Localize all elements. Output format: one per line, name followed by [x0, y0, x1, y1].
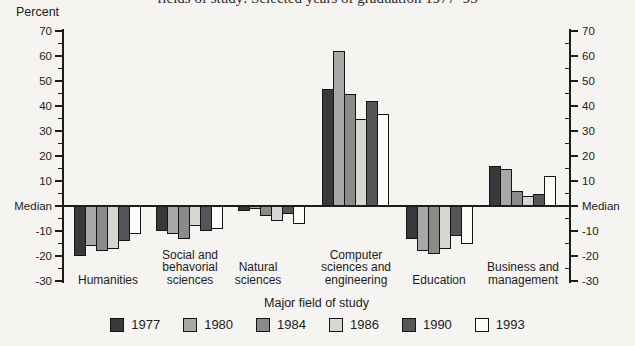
y-tick-label-left: 70 [4, 24, 52, 38]
y-tick-minor-left [58, 143, 62, 144]
bar [293, 206, 305, 224]
y-tick-minor-right [565, 68, 569, 69]
y-tick-label-left: -20 [4, 249, 52, 263]
y-tick-major-right [571, 30, 578, 32]
y-tick-label-left: 20 [4, 149, 52, 163]
y-tick-major-right [571, 155, 578, 157]
y-axis-left [62, 29, 64, 283]
bar [129, 206, 141, 234]
y-tick-label-left: -10 [4, 224, 52, 238]
y-tick-major-right [571, 80, 578, 82]
y-tick-minor-left [58, 193, 62, 194]
y-tick-label-right: -10 [582, 224, 634, 238]
category-label: Education [412, 274, 465, 287]
y-tick-label-right: 40 [582, 99, 634, 113]
y-tick-label-left: 40 [4, 99, 52, 113]
y-tick-major-right [571, 205, 578, 207]
y-tick-minor-left [58, 43, 62, 44]
y-tick-minor-right [565, 268, 569, 269]
legend-item: 1980 [183, 317, 233, 332]
legend-swatch [402, 318, 416, 332]
x-axis-title: Major field of study [63, 296, 570, 310]
y-tick-major-right [571, 180, 578, 182]
y-tick-label-right: 30 [582, 124, 634, 138]
y-tick-label-right: 10 [582, 174, 634, 188]
y-tick-label-right: -30 [582, 274, 634, 288]
legend-item: 1986 [329, 317, 379, 332]
y-tick-major-left [55, 180, 62, 182]
y-tick-label-right: Median [582, 199, 634, 213]
category-label: Business andmanagement [487, 261, 559, 286]
y-tick-minor-right [565, 143, 569, 144]
y-tick-label-right: 20 [582, 149, 634, 163]
y-tick-minor-left [58, 168, 62, 169]
y-tick-label-right: -20 [582, 249, 634, 263]
legend-swatch [329, 318, 343, 332]
median-line [63, 205, 569, 207]
legend-item: 1984 [256, 317, 306, 332]
y-tick-major-right [571, 280, 578, 282]
y-tick-minor-right [565, 43, 569, 44]
chart-page: fields of study: Selected years of gradu… [0, 0, 635, 346]
y-tick-major-left [55, 55, 62, 57]
y-tick-major-left [55, 230, 62, 232]
y-tick-label-left: 10 [4, 174, 52, 188]
legend-label: 1980 [204, 317, 233, 332]
y-tick-minor-left [58, 93, 62, 94]
y-tick-minor-right [565, 93, 569, 94]
legend-item: 1993 [475, 317, 525, 332]
y-tick-major-right [571, 55, 578, 57]
y-tick-minor-right [565, 218, 569, 219]
y-tick-major-right [571, 105, 578, 107]
bar [544, 176, 556, 206]
legend-swatch [256, 318, 270, 332]
y-tick-label-right: 60 [582, 49, 634, 63]
y-tick-major-left [55, 105, 62, 107]
y-tick-major-left [55, 155, 62, 157]
bar [211, 206, 223, 229]
y-tick-minor-right [565, 193, 569, 194]
y-tick-minor-left [58, 118, 62, 119]
y-tick-minor-left [58, 243, 62, 244]
y-tick-major-right [571, 130, 578, 132]
plot-area: -30-30-20-20-10-10MedianMedian1010202030… [0, 0, 635, 346]
y-tick-major-right [571, 230, 578, 232]
y-tick-minor-right [565, 118, 569, 119]
y-tick-minor-left [58, 218, 62, 219]
y-tick-label-left: 50 [4, 74, 52, 88]
y-tick-major-left [55, 205, 62, 207]
category-label: Humanities [78, 274, 138, 287]
bar [377, 114, 389, 207]
legend-swatch [475, 318, 489, 332]
legend-swatch [183, 318, 197, 332]
legend: 197719801984198619901993 [0, 317, 635, 332]
y-tick-minor-right [565, 168, 569, 169]
y-tick-label-left: 30 [4, 124, 52, 138]
category-label: Naturalsciences [235, 261, 282, 286]
legend-swatch [110, 318, 124, 332]
bar [461, 206, 473, 244]
legend-label: 1984 [277, 317, 306, 332]
legend-item: 1990 [402, 317, 452, 332]
y-tick-major-right [571, 255, 578, 257]
y-tick-minor-left [58, 68, 62, 69]
legend-label: 1990 [423, 317, 452, 332]
y-tick-label-left: Median [4, 199, 52, 213]
legend-label: 1993 [496, 317, 525, 332]
legend-label: 1977 [131, 317, 160, 332]
legend-item: 1977 [110, 317, 160, 332]
y-tick-major-left [55, 80, 62, 82]
y-tick-major-left [55, 30, 62, 32]
category-label: Social andbehavorialsciences [162, 249, 218, 287]
y-tick-minor-right [565, 243, 569, 244]
y-tick-minor-left [58, 268, 62, 269]
legend-label: 1986 [350, 317, 379, 332]
y-tick-label-right: 70 [582, 24, 634, 38]
y-tick-major-left [55, 280, 62, 282]
y-tick-major-left [55, 255, 62, 257]
y-tick-label-left: 60 [4, 49, 52, 63]
y-tick-label-left: -30 [4, 274, 52, 288]
y-tick-major-left [55, 130, 62, 132]
y-tick-label-right: 50 [582, 74, 634, 88]
category-label: Computersciences andengineering [321, 249, 391, 287]
